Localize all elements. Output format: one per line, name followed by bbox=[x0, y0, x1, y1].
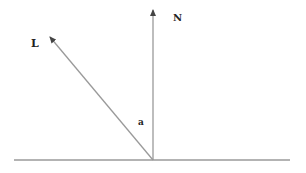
normal-label: N bbox=[173, 12, 182, 23]
angle-label: a bbox=[138, 117, 144, 127]
light-vector bbox=[50, 37, 153, 160]
diagram-canvas bbox=[0, 0, 306, 173]
light-label: L bbox=[31, 37, 39, 50]
